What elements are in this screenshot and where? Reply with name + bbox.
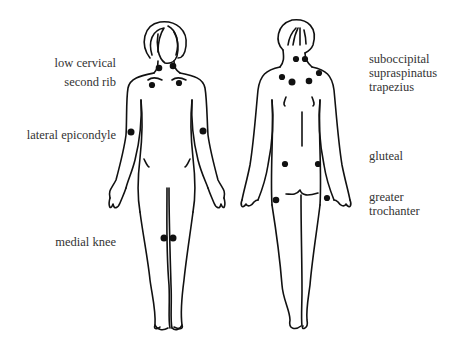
dot-suboccipital-right [302, 56, 308, 62]
dot-low-cervical-right [170, 63, 177, 70]
tender-points [128, 56, 331, 242]
dot-low-cervical-left [156, 65, 163, 72]
dot-medial-knee-left [161, 235, 168, 242]
dot-supraspinatus-right [306, 78, 313, 85]
dot-second-rib-left [149, 82, 155, 88]
dot-trapezius-left [279, 74, 285, 80]
dot-second-rib-right [176, 80, 182, 86]
dot-suboccipital-left [293, 56, 299, 62]
body-diagram [0, 0, 464, 347]
dot-supraspinatus-left [289, 79, 296, 86]
front-figure [109, 22, 225, 330]
dot-trapezius-right [316, 70, 322, 76]
dot-lateral-epicondyle-left [128, 129, 135, 136]
dot-medial-knee-right [170, 235, 177, 242]
dot-lateral-epicondyle-right [200, 128, 207, 135]
dot-greater-trochanter-left [273, 197, 280, 204]
dot-greater-trochanter-right [324, 195, 330, 201]
dot-gluteal-left [282, 161, 288, 167]
dot-gluteal-right [315, 161, 321, 167]
back-figure [241, 20, 351, 329]
